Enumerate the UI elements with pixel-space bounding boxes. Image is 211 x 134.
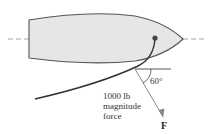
force-magnitude-line-1: 1000 lb: [103, 91, 141, 101]
force-arrowhead-icon: [159, 109, 165, 119]
force-magnitude-line-2: magnitude: [103, 101, 141, 111]
force-magnitude-label: 1000 lb magnitude force: [103, 91, 141, 121]
angle-label: 60°: [150, 76, 163, 86]
boat-hull: [29, 14, 183, 63]
attachment-point: [152, 35, 157, 40]
force-magnitude-line-3: force: [103, 111, 141, 121]
force-vector-symbol: F: [161, 121, 167, 131]
